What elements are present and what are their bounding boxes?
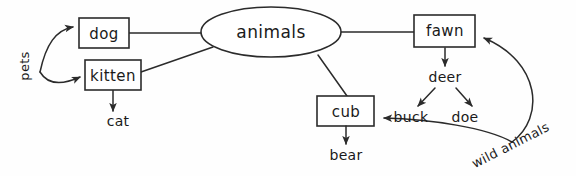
edge-deer-to-buck	[418, 88, 435, 106]
edge-pets-to-dog	[40, 27, 73, 72]
leaf-label-cat: cat	[107, 113, 130, 129]
node-label-cub: cub	[332, 103, 360, 121]
edge-deer-to-doe	[456, 88, 472, 106]
node-label-animals: animals	[236, 22, 305, 42]
edge-label-pets: pets	[17, 51, 32, 80]
edge-kitten-to-animals	[141, 47, 213, 72]
leaf-label-deer: deer	[428, 69, 461, 85]
node-label-dog: dog	[89, 25, 118, 43]
edge-wild-animals-to-fawn	[484, 38, 533, 142]
diagram-canvas: animals dog kitten fawn cub cat bear dee…	[0, 0, 576, 176]
leaf-label-buck: buck	[394, 109, 429, 125]
edge-pets-to-kitten	[40, 72, 80, 82]
leaf-label-doe: doe	[452, 109, 479, 125]
node-label-kitten: kitten	[90, 67, 136, 85]
concept-map-diagram: animals dog kitten fawn cub cat bear dee…	[0, 0, 576, 176]
node-label-fawn: fawn	[426, 22, 464, 40]
edge-animals-to-cub	[318, 55, 347, 96]
edge-label-wild-animals: wild animals	[469, 119, 551, 171]
leaf-label-bear: bear	[329, 147, 362, 163]
